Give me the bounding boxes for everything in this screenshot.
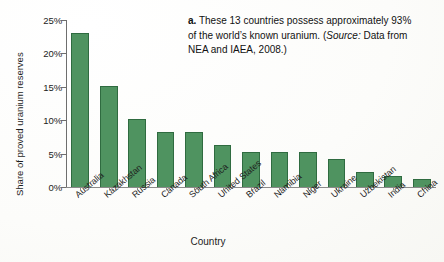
y-axis-tick-label: 25% <box>43 15 62 26</box>
bar[interactable] <box>356 172 374 187</box>
bar[interactable] <box>157 132 175 187</box>
y-axis-title: Share of proved uranium reserves <box>14 6 28 196</box>
chart-figure: 0%5%10%15%20%25% Share of proved uranium… <box>0 0 444 262</box>
bar[interactable] <box>299 152 317 187</box>
bar-slot <box>71 20 89 187</box>
annotation-source-word: Source: <box>326 30 360 41</box>
x-axis-tick <box>166 187 167 190</box>
bar[interactable] <box>100 86 118 187</box>
y-axis-tick <box>61 154 66 155</box>
bar[interactable] <box>413 179 431 187</box>
x-axis-tick <box>279 187 280 190</box>
y-axis-tick <box>61 53 66 54</box>
x-axis-tick <box>365 187 366 190</box>
x-axis-tick <box>109 187 110 190</box>
bar[interactable] <box>185 132 203 187</box>
bar[interactable] <box>242 152 260 187</box>
bar[interactable] <box>384 176 402 187</box>
y-axis-tick-label: 20% <box>43 48 62 59</box>
figure-annotation: a. These 13 countries possess approximat… <box>188 14 420 58</box>
x-axis-tick <box>80 187 81 190</box>
x-axis-title-text: Country <box>190 236 225 247</box>
bar[interactable] <box>71 33 89 187</box>
y-axis-tick <box>61 187 66 188</box>
x-axis-tick <box>393 187 394 190</box>
x-axis-tick <box>137 187 138 190</box>
bar[interactable] <box>271 152 289 187</box>
bar-slot <box>157 20 175 187</box>
y-axis-tick <box>61 20 66 21</box>
y-axis-tick <box>61 87 66 88</box>
x-axis-tick <box>251 187 252 190</box>
bar-slot <box>100 20 118 187</box>
x-axis-title: Country <box>0 236 444 247</box>
x-axis-tick <box>223 187 224 190</box>
y-axis-tick-label: 10% <box>43 115 62 126</box>
y-axis-tick-label: 0% <box>48 182 62 193</box>
x-axis-tick <box>194 187 195 190</box>
bar-slot <box>128 20 146 187</box>
x-axis-tick <box>336 187 337 190</box>
y-axis-tick-label: 5% <box>48 148 62 159</box>
y-axis-line <box>66 20 67 187</box>
bar[interactable] <box>328 159 346 187</box>
x-axis-tick <box>422 187 423 190</box>
y-axis-tick-label: 15% <box>43 81 62 92</box>
bar[interactable] <box>214 145 232 187</box>
x-axis-tick <box>308 187 309 190</box>
y-axis-tick-labels: 0%5%10%15%20%25% <box>30 20 62 187</box>
bar[interactable] <box>128 119 146 187</box>
y-axis-tick <box>61 120 66 121</box>
